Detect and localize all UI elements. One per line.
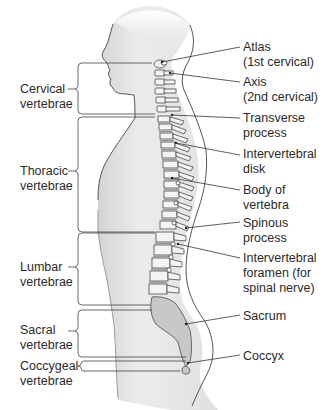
label-coccyx: Coccyx — [243, 349, 284, 364]
label-atlas: Atlas (1st cervical) — [243, 40, 314, 70]
label-intervertebral-foramen: Intervertebral foramen (for spinal nerve… — [243, 251, 317, 296]
label-sacral-vertebrae: Sacral vertebrae — [20, 323, 73, 353]
label-line: spinal nerve) — [243, 281, 317, 296]
label-line: vertebrae — [20, 97, 73, 112]
label-line: Spinous — [243, 216, 288, 231]
label-line: Sacrum — [243, 309, 286, 324]
label-cervical-vertebrae: Cervical vertebrae — [20, 82, 73, 112]
label-line: disk — [243, 162, 317, 177]
label-line: vertebrae — [20, 179, 73, 194]
label-sacrum: Sacrum — [243, 309, 286, 324]
label-axis: Axis (2nd cervical) — [243, 75, 318, 105]
label-coccygeal-vertebrae: Coccygeal vertebrae — [20, 359, 78, 389]
label-line: Body of — [243, 183, 289, 198]
label-line: Cervical — [20, 82, 73, 97]
label-spinous-process: Spinous process — [243, 216, 288, 246]
label-line: vertebrae — [20, 374, 78, 389]
label-line: Thoracic — [20, 164, 73, 179]
label-line: (2nd cervical) — [243, 90, 318, 105]
label-line: vertebra — [243, 198, 289, 213]
label-transverse-process: Transverse process — [243, 111, 305, 141]
label-thoracic-vertebrae: Thoracic vertebrae — [20, 164, 73, 194]
label-line: process — [243, 231, 288, 246]
label-body-of-vertebra: Body of vertebra — [243, 183, 289, 213]
label-line: Intervertebral — [243, 251, 317, 266]
label-line: Coccygeal — [20, 359, 78, 374]
label-line: vertebrae — [20, 338, 73, 353]
label-line: vertebrae — [20, 275, 73, 290]
label-line: Axis — [243, 75, 318, 90]
label-line: foramen (for — [243, 266, 317, 281]
label-line: Atlas — [243, 40, 314, 55]
label-line: Sacral — [20, 323, 73, 338]
label-line: (1st cervical) — [243, 55, 314, 70]
label-line: Intervertebral — [243, 147, 317, 162]
label-line: Coccyx — [243, 349, 284, 364]
label-lumbar-vertebrae: Lumbar vertebrae — [20, 260, 73, 290]
label-intervertebral-disk: Intervertebral disk — [243, 147, 317, 177]
label-line: Lumbar — [20, 260, 73, 275]
label-line: process — [243, 126, 305, 141]
spine-diagram: Cervical vertebrae Thoracic vertebrae Lu… — [0, 0, 332, 410]
label-line: Transverse — [243, 111, 305, 126]
